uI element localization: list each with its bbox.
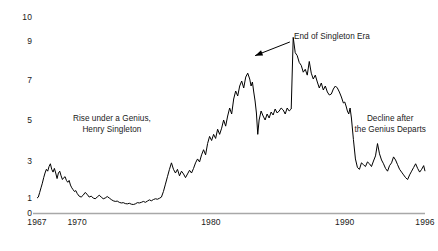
y-tick-label-7: 7 — [10, 76, 32, 85]
y-tick-label-3: 3 — [10, 157, 32, 166]
x-tick-label-1970: 1970 — [57, 218, 97, 227]
chart-container: 10975310 19671970198019901996 Rise under… — [0, 0, 438, 251]
x-tick-label-1996: 1996 — [405, 218, 438, 227]
y-tick-label-5: 5 — [10, 116, 32, 125]
decline-annotation-line-1: Decline after — [330, 114, 438, 125]
end-era-annotation: End of Singleton Era — [294, 32, 370, 43]
decline-annotation-line-2: the Genius Departs — [330, 125, 438, 136]
x-tick-label-1990: 1990 — [325, 218, 365, 227]
x-tick-label-1980: 1980 — [191, 218, 231, 227]
annotation-arrow-group — [255, 42, 290, 56]
y-tick-label-10: 10 — [10, 13, 32, 22]
end-era-arrow-head — [255, 50, 263, 55]
decline-annotation: Decline afterthe Genius Departs — [330, 114, 438, 135]
y-tick-label-9: 9 — [10, 37, 32, 46]
y-tick-label-1: 1 — [10, 194, 32, 203]
rise-annotation-line-2: Henry Singleton — [52, 125, 172, 136]
x-tick-label-1967: 1967 — [17, 218, 57, 227]
end-era-annotation-line-1: End of Singleton Era — [294, 32, 370, 43]
rise-annotation-line-1: Rise under a Genius, — [52, 114, 172, 125]
rise-annotation: Rise under a Genius,Henry Singleton — [52, 114, 172, 135]
